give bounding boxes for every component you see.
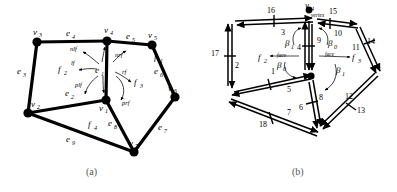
halfedge-number-labels: 1 2 3 4 5 6 7 8 9 10 11 12 13 14 15 16 1… — [211, 6, 375, 129]
face-f2-label-b: f — [258, 52, 262, 62]
he-17-label: 17 — [211, 49, 219, 58]
vertex-v3-dot — [32, 37, 41, 46]
panel-b-diagram: v 4 vertex face face f 2 f 3 — [199, 0, 397, 192]
face-f4-label: f — [88, 119, 92, 129]
halfedge-paths — [228, 18, 380, 136]
he-8-label: 8 — [319, 93, 323, 102]
edge-e2-sub: 2 — [71, 94, 74, 100]
edge-e3-sub: 3 — [22, 72, 26, 78]
he13-path — [323, 76, 378, 129]
vertex-v4-sub: 4 — [110, 30, 113, 36]
he-7-label: 7 — [287, 108, 291, 117]
he6-path — [309, 82, 317, 128]
plf-label: plf — [74, 81, 83, 88]
beta0-mid-left-label: β — [276, 60, 282, 70]
edge-e3-label: e — [17, 66, 21, 76]
mesh-edges — [28, 41, 175, 152]
he-18-label: 18 — [259, 120, 267, 129]
he-4-label: 4 — [297, 43, 301, 52]
beta1-mid-right-arrow — [325, 64, 336, 90]
panel-a-diagram: v 3 v 4 v 5 v 6 v 7 v 2 v 1 e 4 e 5 e 6 … — [0, 0, 199, 192]
he-13-label: 13 — [357, 106, 365, 115]
vertex-v5-label: v — [148, 30, 152, 40]
face-f3-label: f — [134, 77, 138, 87]
edge-e7-label: e — [158, 122, 162, 132]
vertex-v2-label: v — [31, 99, 35, 109]
vertex-v4-dot — [102, 36, 111, 45]
edge-e1-sub: 1 — [101, 71, 104, 77]
face-f2-sub-b: 2 — [264, 58, 267, 64]
he-15-label: 15 — [329, 7, 337, 16]
vertex-v6-label: v — [168, 83, 172, 93]
v1-down-arrow — [103, 76, 104, 93]
he-5-label: 5 — [287, 85, 291, 94]
tick-12 — [346, 103, 356, 110]
edge-e7-sub: 7 — [164, 128, 168, 134]
beta1-top-left-label: β — [284, 38, 290, 48]
beta1-mid-right-label: β — [335, 65, 341, 75]
edge-e5-sub: 5 — [132, 37, 135, 43]
he-2-label: 2 — [235, 61, 239, 70]
edge-e8-label: e — [108, 118, 112, 128]
edge-e6-sub: 6 — [160, 72, 163, 78]
beta1-top-left-sub: 1 — [291, 44, 294, 50]
edge-e7-line — [134, 97, 175, 152]
vertex-v4-label-b: v — [305, 0, 309, 10]
vertex-word-label: vertex — [311, 12, 325, 18]
edge-e4-sub: 4 — [72, 34, 75, 40]
vertex-v3-label: v — [33, 27, 37, 37]
rf-label: rf — [122, 68, 128, 75]
vertex-v2-dot — [23, 108, 32, 117]
face-f3-sub-b: 3 — [357, 58, 361, 64]
edge-e9-line — [28, 113, 134, 152]
he3-inflow — [237, 22, 313, 25]
edge-e1-label: e — [95, 65, 99, 75]
he-12-label: 12 — [345, 92, 353, 101]
face-f2-sub: 2 — [64, 70, 67, 76]
lf-label: lf — [71, 59, 76, 66]
plf-arrow — [85, 76, 98, 94]
beta0-mid-left-sub: 0 — [283, 66, 286, 72]
he-1-label: 1 — [271, 67, 275, 76]
he-14-label: 14 — [367, 37, 375, 46]
f3-pointer-arrow — [319, 56, 350, 57]
beta0-top-right-sub: 0 — [334, 44, 337, 50]
nlf-arrow — [83, 52, 99, 64]
face-f3-sub: 3 — [139, 83, 143, 89]
nlf-label: nlf — [70, 45, 78, 52]
vertex-v6-sub: 6 — [174, 88, 177, 94]
edge-e6-label: e — [154, 66, 158, 76]
vertex-v2-sub: 2 — [37, 104, 40, 110]
center-vertex-dot — [307, 72, 314, 79]
vertex-v1-sub: 1 — [105, 108, 108, 114]
face-word-left: face — [277, 52, 287, 58]
prf-arrow — [116, 76, 124, 100]
e1-up-arrow — [102, 47, 105, 62]
beta1-mid-right-sub: 1 — [342, 71, 345, 77]
he-3-label: 3 — [281, 28, 285, 37]
edge-e5-line — [107, 41, 152, 45]
edge-e4-label: e — [66, 28, 70, 38]
he1-path — [234, 75, 311, 92]
he-6-label: 6 — [299, 103, 303, 112]
edge-e4-line — [37, 41, 107, 42]
face-f2-label: f — [58, 64, 62, 74]
face-f4-sub: 4 — [94, 125, 97, 131]
he8-path — [313, 80, 321, 126]
vertex-v4-label: v — [104, 25, 108, 35]
he11-path — [360, 27, 380, 71]
edge-e1-line — [106, 41, 107, 100]
he-9-label: 9 — [317, 36, 321, 45]
face-f1-sub: 1 — [160, 58, 163, 64]
beta0-mid-left-arrow — [285, 62, 296, 78]
vertex-v5-sub: 5 — [154, 35, 157, 41]
vertex-v7-label: v — [129, 138, 133, 148]
nrf-label: nrf — [115, 51, 124, 58]
edge-e5-label: e — [126, 31, 130, 41]
vertex-v3-sub: 3 — [38, 32, 42, 38]
he5-path — [232, 79, 311, 95]
edge-e8-sub: 8 — [114, 124, 117, 130]
beta0-top-right-label: β — [327, 38, 333, 48]
vertex-v1-label: v — [99, 103, 103, 113]
face-f3-label-b: f — [352, 52, 356, 62]
